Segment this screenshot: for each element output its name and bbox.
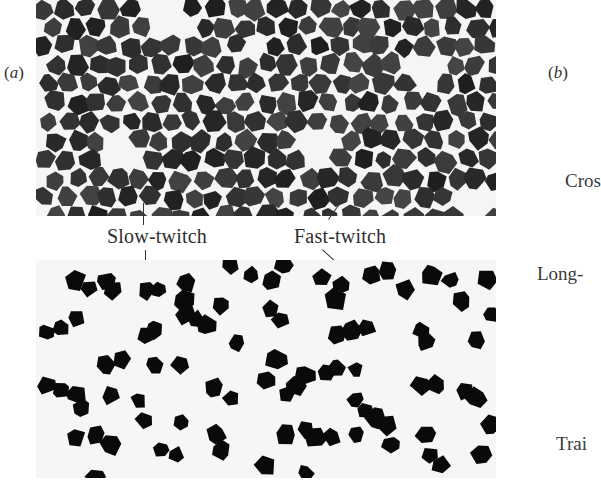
micrograph-top-cross-section [36,0,496,216]
panel-b-label: (b) [548,63,568,83]
fast-twitch-label: Fast-twitch [294,225,386,248]
stained-fibers-image [36,260,496,478]
slow-twitch-label: Slow-twitch [107,225,207,248]
fiber-mosaic-image [36,0,496,216]
slow-twitch-leader-top [143,203,144,225]
micrograph-bottom-serial-section [36,260,496,478]
panel-b-label-train: Trai [556,433,587,455]
panel-b-label-long: Long- [537,263,583,285]
panel-a-label: (a) [4,63,24,83]
panel-b-label-cross: Cros [565,170,601,192]
